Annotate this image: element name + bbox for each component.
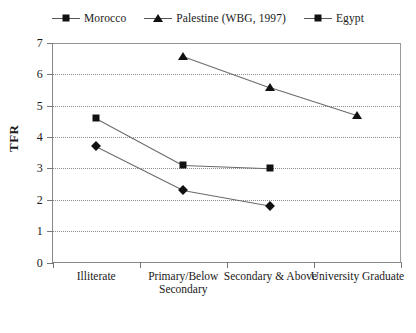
legend-label: Egypt bbox=[336, 12, 364, 24]
series-line-1 bbox=[183, 56, 270, 88]
diamond-marker bbox=[265, 201, 275, 211]
y-tick-label-6: 6 bbox=[37, 68, 43, 80]
gridline-4 bbox=[53, 137, 400, 138]
gridline-3 bbox=[53, 168, 400, 169]
triangle-marker bbox=[178, 52, 188, 60]
x-tick-2 bbox=[227, 262, 228, 268]
square-marker bbox=[93, 115, 100, 122]
legend-item-2[interactable]: Egypt bbox=[304, 12, 364, 24]
y-tick-label-7: 7 bbox=[37, 37, 43, 49]
x-tick-label-0: Illiterate bbox=[48, 270, 144, 284]
x-tick-label-1: Primary/Below Secondary bbox=[135, 270, 231, 297]
series-line-1 bbox=[270, 87, 357, 116]
y-tick-label-1: 1 bbox=[37, 225, 43, 237]
x-tick-0 bbox=[53, 262, 54, 268]
plot-right-border bbox=[400, 43, 401, 263]
x-tick-1 bbox=[140, 262, 141, 268]
y-tick-label-2: 2 bbox=[37, 194, 43, 206]
y-tick-label-3: 3 bbox=[37, 162, 43, 174]
tfr-line-chart: MoroccoPalestine (WBG, 1997)Egypt TFR 01… bbox=[0, 0, 416, 333]
gridline-6 bbox=[53, 74, 400, 75]
gridline-1 bbox=[53, 231, 400, 232]
y-tick-label-0: 0 bbox=[37, 257, 43, 269]
series-line-2 bbox=[96, 118, 184, 166]
diamond-marker bbox=[178, 185, 188, 195]
y-tick-5 bbox=[47, 106, 53, 107]
y-tick-label-4: 4 bbox=[37, 131, 43, 143]
square-marker bbox=[267, 165, 274, 172]
x-tick-4 bbox=[401, 262, 402, 268]
legend-item-1[interactable]: Palestine (WBG, 1997) bbox=[144, 12, 286, 24]
y-tick-4 bbox=[47, 137, 53, 138]
y-tick-7 bbox=[47, 43, 53, 44]
triangle-marker bbox=[144, 13, 172, 24]
gridline-2 bbox=[53, 200, 400, 201]
diamond-marker bbox=[91, 142, 101, 152]
triangle-marker bbox=[352, 111, 362, 119]
diamond-marker bbox=[52, 13, 80, 24]
y-tick-label-5: 5 bbox=[37, 100, 43, 112]
square-marker bbox=[304, 13, 332, 24]
y-tick-1 bbox=[47, 231, 53, 232]
y-tick-6 bbox=[47, 74, 53, 75]
x-tick-label-3: University Graduate bbox=[309, 270, 405, 284]
plot-area: 01234567IlliteratePrimary/Below Secondar… bbox=[52, 43, 400, 263]
series-line-0 bbox=[183, 190, 270, 207]
y-tick-3 bbox=[47, 168, 53, 169]
gridline-5 bbox=[53, 106, 400, 107]
legend-label: Palestine (WBG, 1997) bbox=[176, 12, 286, 24]
legend-item-0[interactable]: Morocco bbox=[52, 12, 126, 24]
x-tick-3 bbox=[314, 262, 315, 268]
triangle-marker bbox=[265, 83, 275, 91]
gridline-7 bbox=[53, 43, 400, 44]
y-tick-2 bbox=[47, 200, 53, 201]
chart-legend: MoroccoPalestine (WBG, 1997)Egypt bbox=[0, 6, 416, 30]
y-axis-title: TFR bbox=[6, 125, 22, 153]
square-marker bbox=[180, 162, 187, 169]
legend-label: Morocco bbox=[84, 12, 126, 24]
x-tick-label-2: Secondary & Above bbox=[222, 270, 318, 284]
